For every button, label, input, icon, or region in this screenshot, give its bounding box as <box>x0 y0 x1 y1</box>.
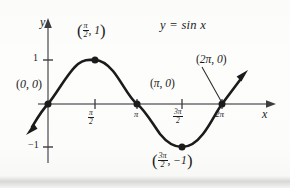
point-maximum <box>92 57 99 64</box>
annotation-two-pi-zero: (2π, 0) <box>196 54 227 66</box>
sine-graph-figure: y x y = sin x (0, 0) ( π 2 , 1) (π, 0) (… <box>0 0 290 188</box>
annotation-origin: (0, 0) <box>16 78 42 90</box>
x-axis <box>38 100 276 108</box>
y-axis <box>44 18 52 163</box>
annotation-minimum-x-fraction: 3π 2 <box>158 152 168 170</box>
x-tick-three-pi-over-2-denominator: 2 <box>173 117 183 125</box>
annotation-minimum-y: −1 <box>173 154 187 166</box>
function-equation-label: y = sin x <box>160 19 206 32</box>
x-tick-label-pi: π <box>134 110 138 119</box>
annotation-two-pi-zero-close: ) <box>223 53 227 65</box>
annotation-pi-zero: (π, 0) <box>150 78 175 90</box>
x-axis-label: x <box>262 108 267 120</box>
y-axis-label: y <box>40 16 45 28</box>
x-tick-pi-over-2-denominator: 2 <box>88 118 94 126</box>
point-minimum <box>179 144 186 151</box>
leader-line-two-pi <box>202 67 221 101</box>
y-tick-label-one: 1 <box>33 53 38 63</box>
annotation-maximum: ( π 2 , 1) <box>77 22 106 40</box>
annotation-maximum-close: ) <box>100 21 106 40</box>
point-origin <box>45 101 52 108</box>
annotation-origin-close: ) <box>38 77 42 91</box>
point-pi-zero <box>134 101 141 108</box>
x-tick-label-pi-over-2: π 2 <box>88 109 94 125</box>
x-tick-label-three-pi-over-2: 3π 2 <box>173 108 183 124</box>
x-tick-pi-over-2-fraction: π 2 <box>88 109 94 125</box>
point-two-pi-zero <box>219 101 226 108</box>
annotation-minimum-close: ) <box>187 151 193 170</box>
x-tick-three-pi-over-2-fraction: 3π 2 <box>173 108 183 124</box>
annotation-minimum-x-denominator: 2 <box>158 161 168 169</box>
annotation-pi-zero-close: ) <box>171 77 175 89</box>
y-tick-label-negative-one: −1 <box>28 140 39 150</box>
x-tick-label-two-pi: 2π <box>215 110 224 119</box>
annotation-minimum: ( 3π 2 , −1) <box>152 152 192 170</box>
annotation-two-pi-zero-x: 2π <box>200 53 212 65</box>
